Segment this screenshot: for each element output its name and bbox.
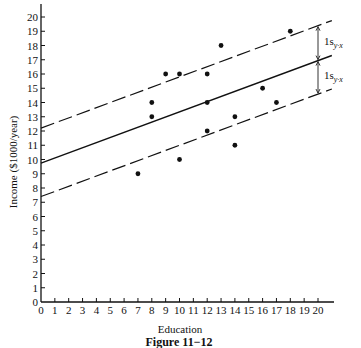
y-tick-label: 20 xyxy=(27,11,39,23)
data-point xyxy=(149,100,154,105)
x-axis-title: Education xyxy=(158,323,203,335)
y-tick-label: 5 xyxy=(33,225,39,237)
x-tick-label: 20 xyxy=(313,304,325,316)
x-tick-label: 8 xyxy=(149,304,155,316)
x-tick-label: 11 xyxy=(188,304,199,316)
y-tick-label: 16 xyxy=(27,68,39,80)
band-label: 1sy·x xyxy=(324,69,343,84)
x-tick-label: 5 xyxy=(108,304,114,316)
data-point xyxy=(260,86,265,91)
y-axis-title: Income ($1000/year) xyxy=(7,115,20,208)
x-tick-label: 17 xyxy=(271,304,283,316)
data-point xyxy=(205,100,210,105)
regression-lines xyxy=(41,21,332,197)
figure-caption: Figure 11−12 xyxy=(146,335,213,348)
data-point xyxy=(177,72,182,77)
y-tick-label: 9 xyxy=(33,168,39,180)
y-tick-label: 3 xyxy=(33,253,39,265)
data-point xyxy=(233,114,238,119)
x-tick-label: 9 xyxy=(163,304,169,316)
x-tick-label: 13 xyxy=(216,304,228,316)
x-tick-label: 19 xyxy=(299,304,311,316)
y-tick-label: 18 xyxy=(27,40,39,52)
y-tick-label: 15 xyxy=(27,82,39,94)
y-tick-label: 13 xyxy=(27,111,39,123)
band-line xyxy=(41,89,332,197)
band-label: 1sy·x xyxy=(324,35,343,50)
y-tick-label: 2 xyxy=(33,268,39,280)
x-tick-label: 18 xyxy=(285,304,297,316)
y-tick-label: 8 xyxy=(33,182,39,194)
data-point xyxy=(149,114,154,119)
data-point xyxy=(163,72,168,77)
y-tick-label: 12 xyxy=(27,125,38,137)
band-line xyxy=(41,21,332,129)
y-tick-label: 1 xyxy=(33,282,39,294)
y-tick-label: 0 xyxy=(33,296,39,308)
y-tick-label: 11 xyxy=(27,139,38,151)
data-points xyxy=(136,29,293,176)
x-tick-label: 7 xyxy=(135,304,141,316)
data-point xyxy=(177,157,182,162)
y-tick-label: 7 xyxy=(33,196,39,208)
x-tick-label: 0 xyxy=(38,304,44,316)
x-tick-label: 4 xyxy=(94,304,100,316)
x-tick-label: 3 xyxy=(80,304,86,316)
x-tick-label: 6 xyxy=(121,304,127,316)
data-point xyxy=(205,129,210,134)
data-point xyxy=(288,29,293,34)
x-tick-label: 10 xyxy=(174,304,186,316)
x-tick-label: 2 xyxy=(66,304,72,316)
regression-line xyxy=(41,55,332,163)
y-tick-label: 4 xyxy=(33,239,39,251)
data-point xyxy=(233,143,238,148)
y-tick-label: 6 xyxy=(33,211,39,223)
data-point xyxy=(274,100,279,105)
y-tick-label: 10 xyxy=(27,154,39,166)
y-tick-label: 19 xyxy=(27,25,39,37)
y-tick-label: 14 xyxy=(27,97,39,109)
x-tick-label: 16 xyxy=(257,304,269,316)
x-tick-label: 14 xyxy=(229,304,241,316)
scatter-chart: 0123456789101112131415161718192001234567… xyxy=(0,0,361,348)
x-tick-label: 1 xyxy=(52,304,58,316)
data-point xyxy=(136,171,141,176)
data-point xyxy=(219,43,224,48)
y-tick-label: 17 xyxy=(27,54,39,66)
x-tick-label: 12 xyxy=(202,304,213,316)
data-point xyxy=(205,72,210,77)
x-tick-label: 15 xyxy=(243,304,255,316)
